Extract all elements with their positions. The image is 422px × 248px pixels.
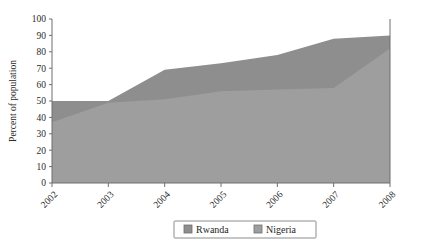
x-tick-label: 2003 [95, 189, 116, 210]
y-tick-label: 0 [41, 178, 46, 188]
area-chart: 0102030405060708090100 20022003200420052… [0, 0, 422, 248]
x-axis: 2002200320042005200620072008 [39, 183, 398, 210]
y-tick-label: 100 [32, 14, 47, 24]
x-tick-label: 2005 [208, 189, 229, 210]
y-axis-title: Percent of population [8, 60, 18, 142]
y-tick-label: 20 [37, 146, 47, 156]
y-tick-label: 60 [37, 80, 47, 90]
x-tick-label: 2002 [39, 189, 60, 210]
y-tick-label: 50 [37, 96, 47, 106]
legend-swatch-nigeria [254, 225, 262, 233]
x-tick-label: 2006 [264, 189, 285, 210]
y-tick-label: 30 [37, 129, 47, 139]
chart-container: 0102030405060708090100 20022003200420052… [0, 0, 422, 248]
y-axis: 0102030405060708090100 [32, 14, 52, 188]
y-tick-label: 10 [37, 162, 47, 172]
x-tick-label: 2004 [152, 189, 173, 210]
legend-label-nigeria: Nigeria [266, 224, 297, 235]
y-tick-label: 40 [37, 113, 47, 123]
x-tick-label: 2007 [321, 189, 342, 210]
x-tick-label: 2008 [377, 189, 398, 210]
chart-legend: RwandaNigeria [174, 221, 316, 238]
legend-label-rwanda: Rwanda [196, 224, 229, 235]
y-tick-label: 70 [37, 64, 47, 74]
y-tick-label: 90 [37, 31, 47, 41]
legend-swatch-rwanda [184, 225, 192, 233]
y-tick-label: 80 [37, 47, 47, 57]
